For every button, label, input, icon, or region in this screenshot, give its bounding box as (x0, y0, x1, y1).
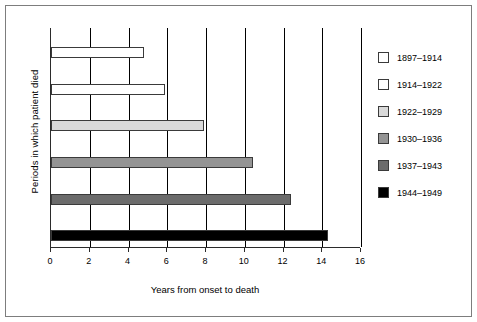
legend-swatch-icon (378, 52, 389, 63)
gridline (206, 28, 207, 247)
gridline (129, 28, 130, 247)
gridline (361, 28, 362, 247)
x-axis-tick (89, 248, 90, 252)
bar (51, 194, 291, 205)
plot-area (50, 28, 360, 248)
x-axis-tick-label: 10 (232, 256, 256, 266)
chart-frame: Periods in which patient died Years from… (5, 5, 472, 317)
x-axis-tick (360, 248, 361, 252)
bar (51, 84, 165, 95)
x-axis-tick-label: 6 (154, 256, 178, 266)
bar (51, 230, 328, 241)
legend-item-label: 1944–1949 (397, 188, 442, 198)
bar (51, 47, 144, 58)
x-axis-tick (128, 248, 129, 252)
x-axis-tick (321, 248, 322, 252)
x-axis-tick-label: 16 (348, 256, 372, 266)
legend-swatch-icon (378, 106, 389, 117)
gridline (245, 28, 246, 247)
x-axis-tick-label: 12 (271, 256, 295, 266)
legend-item: 1914–1922 (378, 71, 473, 98)
legend-item-label: 1897–1914 (397, 53, 442, 63)
legend-item-label: 1930–1936 (397, 134, 442, 144)
x-axis-tick (244, 248, 245, 252)
x-axis-tick-label: 2 (77, 256, 101, 266)
x-axis-tick-label: 4 (116, 256, 140, 266)
legend-item: 1930–1936 (378, 125, 473, 152)
x-axis-tick-label: 0 (38, 256, 62, 266)
gridline (90, 28, 91, 247)
legend-swatch-icon (378, 79, 389, 90)
gridline (167, 28, 168, 247)
chart-page: Periods in which patient died Years from… (0, 0, 477, 322)
x-axis-tick (50, 248, 51, 252)
legend-item: 1944–1949 (378, 179, 473, 206)
legend-item-label: 1937–1943 (397, 161, 442, 171)
x-axis-tick-label: 8 (193, 256, 217, 266)
y-axis-title: Periods in which patient died (29, 32, 40, 232)
legend-swatch-icon (378, 133, 389, 144)
x-axis-tick (166, 248, 167, 252)
legend-item: 1922–1929 (378, 98, 473, 125)
gridline (284, 28, 285, 247)
legend-item-label: 1922–1929 (397, 107, 442, 117)
legend-swatch-icon (378, 160, 389, 171)
legend-swatch-icon (378, 187, 389, 198)
legend-item: 1937–1943 (378, 152, 473, 179)
bar (51, 120, 204, 131)
bar (51, 157, 253, 168)
x-axis-tick (205, 248, 206, 252)
legend-item-label: 1914–1922 (397, 80, 442, 90)
x-axis-tick-label: 14 (309, 256, 333, 266)
gridline (322, 28, 323, 247)
x-axis-title: Years from onset to death (50, 284, 360, 295)
chart-legend: 1897–19141914–19221922–19291930–19361937… (378, 44, 473, 206)
legend-item: 1897–1914 (378, 44, 473, 71)
x-axis-tick (283, 248, 284, 252)
